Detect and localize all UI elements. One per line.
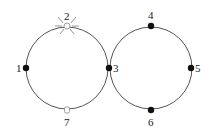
solid-dot-icon (148, 107, 154, 113)
node-label: 2 (64, 10, 70, 22)
node-6[interactable]: 6 (148, 107, 154, 128)
node-7[interactable]: 7 (64, 107, 70, 128)
solid-dot-icon (148, 23, 154, 29)
node-label: 5 (195, 62, 201, 74)
right-ring (110, 27, 192, 109)
node-2[interactable]: 2 (55, 10, 79, 34)
node-label: 3 (113, 62, 119, 74)
solid-dot-icon (188, 65, 194, 71)
node-1[interactable]: 1 (16, 62, 29, 74)
node-4[interactable]: 4 (148, 9, 154, 29)
node-label: 7 (64, 116, 70, 128)
node-5[interactable]: 5 (188, 62, 201, 74)
solid-dot-icon (23, 65, 29, 71)
solid-dot-icon (106, 65, 112, 71)
node-label: 6 (148, 116, 154, 128)
hollow-dot-icon (64, 23, 70, 29)
hollow-marker-icon (65, 107, 70, 113)
node-label: 1 (16, 62, 22, 74)
figure-eight-diagram: 1 2 3 4 5 6 7 (0, 0, 213, 133)
node-label: 4 (148, 9, 154, 21)
left-ring (26, 27, 108, 109)
